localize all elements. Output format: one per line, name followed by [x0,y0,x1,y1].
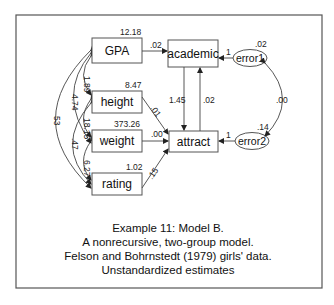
node-attract-label: attract [177,135,211,149]
cov-gpa-rating-label: 53 [52,116,62,126]
node-rating-variance: 1.02 [126,162,143,172]
node-error1-label: error1 [236,52,264,64]
cov-gpa-height-label: 1.89 [82,76,92,93]
node-gpa-label: GPA [105,44,129,58]
path-weight-attract-label: .00 [151,129,163,139]
node-height-variance: 8.47 [125,80,142,90]
cov-height-weight-label: 18.15 [82,118,92,140]
path-gpa-academic-label: .02 [150,40,162,50]
node-error1-variance: .02 [255,39,267,49]
caption-line-2: A nonrecursive, two-group model. [82,236,253,248]
node-weight-label: weight [99,134,135,148]
path-error1-academic-label: 1 [226,47,231,57]
path-height-attract-label: .01 [148,103,163,119]
node-rating-label: rating [102,177,132,191]
cov-error1-error2-label: .00 [276,95,288,105]
node-weight-variance: 373.26 [114,119,140,129]
caption-line-4: Unstandardized estimates [102,264,235,276]
regression-paths [142,51,283,188]
caption-line-3: Felson and Bohrnstedt (1979) girls' data… [64,250,271,262]
path-academic-attract-label: 1.45 [169,95,186,105]
cov-weight-rating-label: 6.27 [82,160,92,177]
node-academic-label: academic [167,47,218,61]
node-error2-label: error2 [238,135,266,147]
node-error2-variance: .14 [257,122,269,132]
path-attract-academic-label: .02 [203,95,215,105]
caption-line-1: Example 11: Model B. [112,222,224,234]
cov-gpa-weight-label: 4.74 [70,94,80,111]
path-error2-attract-label: 1 [226,130,231,140]
path-diagram: 1.89 18.15 6.27 4.74 .47 53 GPA 12.18 he… [0,0,334,305]
cov-height-rating-label: .47 [70,138,80,150]
node-gpa-variance: 12.18 [120,27,142,37]
node-height-label: height [101,95,134,109]
